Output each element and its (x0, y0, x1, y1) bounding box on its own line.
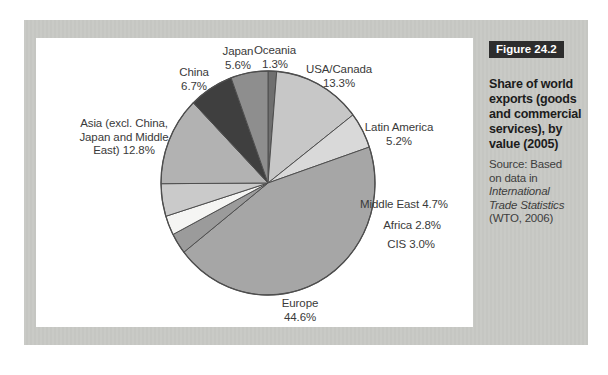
pie-label-china: China 6.7% (179, 66, 209, 93)
pie-label-oceania: Oceania 1.3% (254, 44, 296, 71)
pie-label-africa: Africa 2.8% (383, 219, 441, 233)
figure-source: Source: Based on data in International T… (489, 158, 589, 226)
page: Oceania 1.3%USA/Canada 13.3%Latin Americ… (0, 0, 608, 375)
source-title: International Trade Statistics (489, 185, 589, 212)
figure-sidebar: Figure 24.2 Share of world exports (good… (489, 39, 589, 226)
pie-label-usa-canada: USA/Canada 13.3% (306, 63, 372, 90)
pie-label-cis: CIS 3.0% (387, 238, 435, 252)
source-suffix: (WTO, 2006) (489, 212, 589, 226)
source-prefix: Source: Based on data in (489, 158, 589, 185)
pie-label-middle-east: Middle East 4.7% (360, 198, 448, 212)
figure-tag: Figure 24.2 (489, 41, 564, 58)
pie-label-asia-other: Asia (excl. China, Japan and Middle East… (79, 117, 168, 158)
pie-label-europe: Europe 44.6% (282, 297, 318, 324)
pie-label-latin-america: Latin America 5.2% (365, 121, 433, 148)
figure-caption: Share of world exports (goods and commer… (489, 77, 589, 152)
pie-label-japan: Japan 5.6% (223, 45, 254, 72)
figure-tag-label: Figure 24.2 (496, 43, 557, 55)
